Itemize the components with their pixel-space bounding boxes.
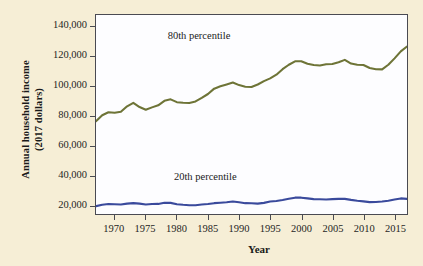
x-tick-mark (208, 215, 209, 220)
x-tick-mark (395, 215, 396, 220)
plot-area (95, 14, 408, 215)
x-tick-mark (270, 215, 271, 220)
annotation-20th-percentile: 20th percentile (174, 171, 237, 182)
x-tick-label: 2015 (375, 223, 415, 234)
x-tick-mark (333, 215, 334, 220)
line-series-80th-percentile (96, 46, 407, 121)
x-tick-mark (176, 215, 177, 220)
x-tick-mark (114, 215, 115, 220)
x-tick-mark (364, 215, 365, 220)
x-tick-mark (239, 215, 240, 220)
chart-figure: Annual household income (2017 dollars) 2… (0, 0, 423, 266)
x-axis-title: Year (0, 243, 423, 255)
annotation-80th-percentile: 80th percentile (168, 30, 231, 41)
line-series-20th-percentile (96, 198, 407, 206)
x-tick-mark (145, 215, 146, 220)
x-tick-mark (302, 215, 303, 220)
plot-svg (96, 15, 407, 214)
